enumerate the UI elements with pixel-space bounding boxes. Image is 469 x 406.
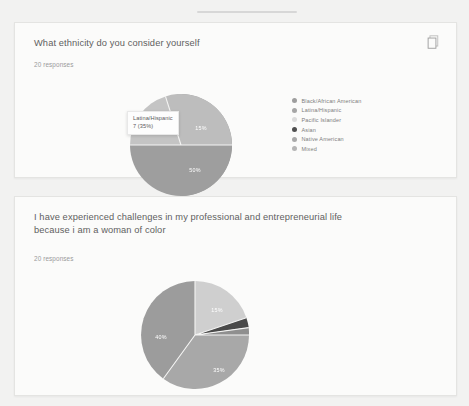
copy-icon[interactable] (427, 35, 440, 50)
legend-label: Mixed (302, 146, 317, 152)
legend-label: Pacific Islander (302, 117, 342, 123)
pie-tooltip-latina-hispanic: Latina/Hispanic 7 (35%) (127, 111, 179, 135)
legend-swatch-icon (292, 137, 297, 142)
legend-swatch-icon (292, 117, 297, 122)
page-title: What ethnicity do you consider yourself (34, 37, 364, 50)
pie-chart-challenges[interactable]: 15% 35% 40% (135, 275, 255, 395)
legend-item-black-african-american[interactable]: Black/African American (292, 96, 361, 106)
legend-swatch-icon (292, 146, 297, 151)
tooltip-label: Latina/Hispanic (133, 115, 173, 123)
legend-label: Latina/Hispanic (302, 107, 342, 113)
tab-underline (197, 11, 297, 13)
legend-swatch-icon (292, 108, 297, 113)
page-title: I have experienced challenges in my prof… (34, 211, 364, 237)
response-card-ethnicity: What ethnicity do you consider yourself … (14, 22, 457, 178)
legend-swatch-icon (292, 127, 297, 132)
legend-item-mixed[interactable]: Mixed (292, 144, 361, 154)
legend-item-latina-hispanic[interactable]: Latina/Hispanic (292, 106, 361, 116)
tooltip-value: 7 (35%) (133, 123, 173, 131)
pie-legend-ethnicity: Black/African American Latina/Hispanic P… (292, 96, 361, 154)
legend-item-asian[interactable]: Asian (292, 125, 361, 135)
pie-chart-ethnicity[interactable]: 50% 15% Latina/Hispanic 7 (35%) (125, 89, 237, 201)
legend-label: Black/African American (302, 98, 362, 104)
legend-swatch-icon (292, 98, 297, 103)
response-count: 20 responses (34, 61, 74, 68)
pie-slice-black-african-american-half[interactable] (130, 145, 232, 196)
pie-slice-label-40: 40% (155, 334, 166, 340)
pie-slice-label-50: 50% (189, 167, 200, 173)
pie-svg-challenges: 15% 35% 40% (135, 275, 255, 395)
response-card-challenges: I have experienced challenges in my prof… (14, 196, 457, 396)
legend-item-native-american[interactable]: Native American (292, 134, 361, 144)
forms-response-page: What ethnicity do you consider yourself … (0, 0, 469, 406)
pie-slice-label-15: 15% (211, 307, 222, 313)
legend-item-pacific-islander[interactable]: Pacific Islander (292, 115, 361, 125)
legend-label: Native American (302, 136, 344, 142)
pie-slice-label-15: 15% (195, 125, 206, 131)
pie-svg-ethnicity: 50% 15% (125, 89, 237, 201)
pie-slice-label-35: 35% (213, 367, 224, 373)
legend-label: Asian (302, 127, 317, 133)
response-count: 20 responses (34, 255, 74, 262)
